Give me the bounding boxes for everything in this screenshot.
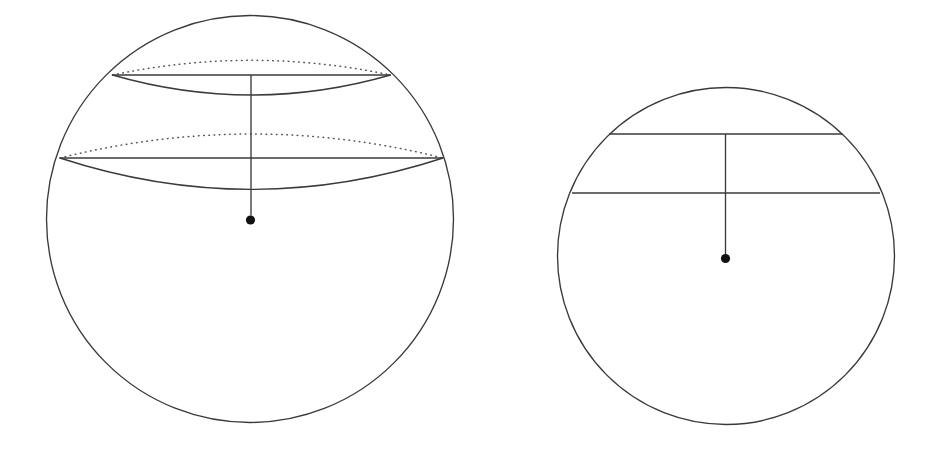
diagram-svg bbox=[0, 0, 937, 456]
sphere-figure bbox=[47, 16, 454, 423]
upper-latitude-circle-back-arc bbox=[113, 60, 391, 75]
diagram-canvas bbox=[0, 0, 937, 456]
sphere-center-dot bbox=[246, 215, 255, 224]
disk-center-dot bbox=[721, 254, 730, 263]
disk-figure bbox=[558, 88, 895, 425]
